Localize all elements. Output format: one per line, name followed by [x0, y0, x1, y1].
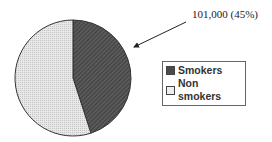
- pie-slices: [15, 20, 131, 136]
- legend-item-non-smokers: Non smokers: [166, 77, 242, 103]
- legend-item-smokers: Smokers: [166, 64, 242, 77]
- annotation-arrow: [134, 22, 186, 47]
- legend-label-smokers: Smokers: [178, 64, 222, 77]
- legend-swatch-smokers: [166, 66, 175, 75]
- smokers-annotation-label: 101,000 (45%): [192, 8, 258, 20]
- legend-swatch-non-smokers: [166, 86, 175, 95]
- legend-label-non-smokers: Non smokers: [178, 77, 242, 103]
- chart-legend: Smokers Non smokers: [162, 61, 246, 106]
